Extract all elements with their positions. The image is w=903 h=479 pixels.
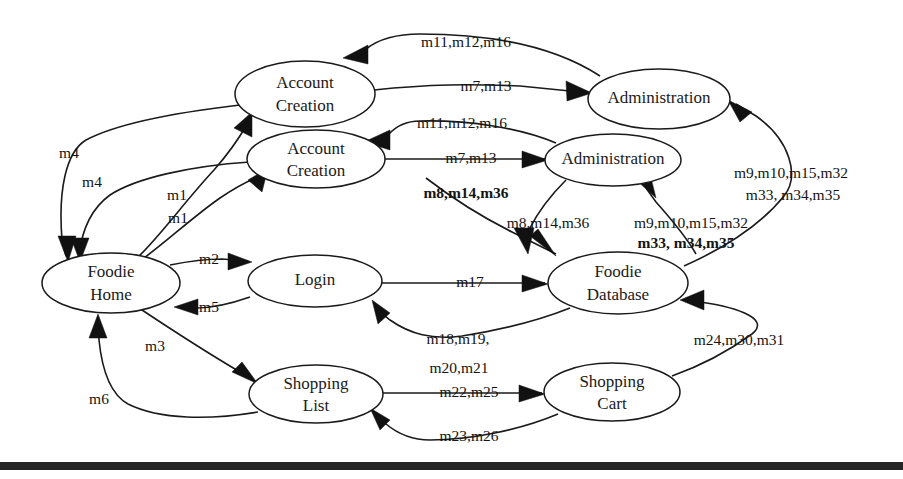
- node-label-foodie-database-line1: Foodie: [594, 262, 641, 281]
- edge-label-m7-m13-mid: m7,m13: [445, 149, 496, 166]
- edge-label-m18-m19: m18,m19,: [427, 330, 490, 347]
- arrowhead-database-to-admin1: [728, 100, 752, 122]
- edge-label-m24-m30-m31: m24,m30,m31: [694, 331, 784, 348]
- arrowhead-home-to-login: [228, 253, 252, 270]
- arrowhead-home-to-list: [232, 362, 258, 384]
- edge-label-m4-upper: m4: [59, 144, 79, 161]
- node-foodie-database[interactable]: Foodie Database: [548, 252, 688, 314]
- edge-label-m5: m5: [199, 298, 219, 315]
- diagram-page: Account Creation Account Creation Admini…: [0, 0, 903, 479]
- edge-label-m11-m12-m16-mid: m11,m12,m16: [417, 114, 507, 131]
- edge-label-m9-group-right-line2: m33, m34,m35: [746, 186, 841, 203]
- arrowhead-admin1-to-account1: [343, 45, 368, 64]
- edge-label-m9-group-right-line1: m9,m10,m15,m32: [734, 164, 848, 181]
- edge-label-m9-group-db-line1: m9,m10,m15,m32: [634, 214, 748, 231]
- node-administration-1[interactable]: Administration: [588, 69, 730, 129]
- node-label-login: Login: [295, 270, 336, 289]
- node-label-shopping-cart-line1: Shopping: [579, 372, 645, 391]
- edge-label-m3: m3: [145, 337, 165, 354]
- edge-label-m9-group-db-line2: m33, m34,m35: [638, 234, 735, 251]
- arrowhead-login-to-database: [522, 275, 548, 292]
- node-label-foodie-database-line2: Database: [587, 285, 649, 304]
- edge-label-m11-m12-m16-top: m11,m12,m16: [421, 33, 511, 50]
- edge-label-m1-lower: m1: [168, 209, 188, 226]
- node-label-account-creation-1-line1: Account: [276, 73, 334, 92]
- edge-label-m1-upper: m1: [167, 186, 187, 203]
- arrowhead-database-to-login: [372, 300, 390, 324]
- arrowhead-list-to-home: [89, 314, 107, 338]
- node-foodie-home[interactable]: Foodie Home: [42, 253, 180, 313]
- edge-label-m8-m14-m36-upper: m8,m14,m36: [423, 184, 508, 201]
- node-label-shopping-cart-line2: Cart: [597, 394, 627, 413]
- edge-label-m17: m17: [456, 273, 484, 290]
- node-label-administration-1: Administration: [608, 88, 711, 107]
- node-label-shopping-list-line1: Shopping: [283, 374, 349, 393]
- node-label-administration-2: Administration: [562, 149, 665, 168]
- node-shopping-list[interactable]: Shopping List: [249, 365, 383, 423]
- edge-label-m20-m21: m20,m21: [430, 359, 489, 376]
- footer-divider-bar: [0, 462, 903, 470]
- edge-label-m8-m14-m36-lower: m8,m14,m36: [507, 214, 590, 231]
- edge-label-m6: m6: [89, 390, 109, 407]
- edge-label-m2: m2: [199, 250, 219, 267]
- node-label-account-creation-2-line1: Account: [287, 139, 345, 158]
- arrowhead-account2-to-admin2: [522, 151, 548, 168]
- node-shopping-cart[interactable]: Shopping Cart: [544, 363, 680, 421]
- edge-label-m7-m13-top: m7,m13: [460, 77, 511, 94]
- arrowhead-home-to-account1: [234, 112, 252, 137]
- arrowhead-list-to-cart: [519, 385, 545, 402]
- node-label-foodie-home-line2: Home: [90, 285, 132, 304]
- arrowhead-login-to-home: [174, 299, 198, 315]
- node-label-account-creation-1-line2: Creation: [276, 96, 335, 115]
- node-label-foodie-home-line1: Foodie: [87, 262, 134, 281]
- node-administration-2[interactable]: Administration: [545, 134, 681, 186]
- node-label-account-creation-2-line2: Creation: [287, 161, 346, 180]
- edge-label-m22-m25: m22,m25: [440, 383, 499, 400]
- nodes-layer: Account Creation Account Creation Admini…: [42, 61, 730, 423]
- node-login[interactable]: Login: [248, 255, 382, 307]
- state-diagram-canvas: Account Creation Account Creation Admini…: [0, 0, 903, 479]
- arrowhead-account2-to-database: [514, 228, 534, 254]
- node-account-creation-2[interactable]: Account Creation: [247, 130, 385, 188]
- arrowhead-cart-to-list: [370, 408, 390, 430]
- node-label-shopping-list-line2: List: [303, 396, 330, 415]
- edge-home-to-account2: [144, 177, 258, 258]
- node-account-creation-1[interactable]: Account Creation: [235, 61, 375, 127]
- edge-label-m23-m26: m23,m26: [440, 427, 499, 444]
- edge-label-m4-lower: m4: [82, 173, 102, 190]
